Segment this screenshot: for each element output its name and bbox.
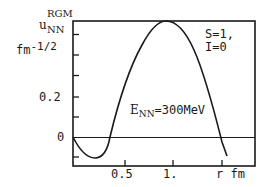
annotation-spin: S=1, [205,28,234,40]
y-tick-label-0: 0 [57,131,64,143]
annotation-energy: ENN=300MeV [130,104,205,116]
x-ticks [125,160,222,166]
plot-frame [73,21,255,166]
x-tick-label-0.5: 0.5 [111,168,133,180]
annotation-isospin: I=0 [205,41,227,53]
x-axis-label: r fm [216,168,245,180]
y-axis-units: fm-1/2 [16,44,57,56]
x-tick-label-1: 1. [163,168,177,180]
y-tick-label-0.2: 0.2 [39,91,61,103]
